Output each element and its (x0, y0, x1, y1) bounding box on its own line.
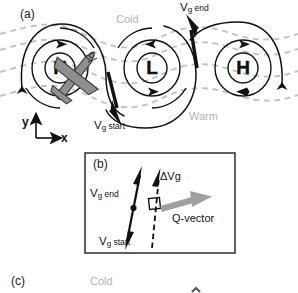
vg-start-base: V (94, 119, 102, 131)
panel-b-q-vector-label: Q-vector (172, 213, 214, 224)
axis-label-y: y (22, 116, 29, 128)
axis-label-x: x (61, 132, 68, 144)
pb-vg-start-suffix: start (114, 237, 131, 247)
panel-c-cold-label: Cold (90, 276, 113, 287)
vg-end-base: V (180, 1, 188, 13)
panel-a-vg-start-label: Vg start (94, 120, 125, 132)
pb-vg-end-suffix: end (105, 189, 119, 199)
panel-a-cold-label: Cold (116, 14, 139, 25)
delta-vg-sub: g (175, 170, 181, 182)
pb-vg-start-base: V (99, 235, 107, 247)
right-angle-icon (148, 197, 160, 209)
panel-c-tag: (c) (11, 275, 25, 287)
panel-a-vg-end-label: Vg end (180, 2, 209, 14)
panel-b-midpoint-dot (130, 205, 136, 211)
panel-b-vg-start-label: Vg start (99, 236, 130, 248)
vg-end-arrow (186, 14, 199, 68)
axis-indicator (36, 119, 56, 138)
low-symbol: L (146, 57, 158, 78)
figure-root: H L H (0, 0, 298, 293)
panel-b-vg-end-label: Vg end (90, 188, 119, 200)
delta-vg-base: ΔV (160, 170, 175, 182)
vg-end-suffix-text: end (195, 3, 209, 13)
vg-start-suffix-text: start (109, 121, 126, 131)
panel-b-delta-vg-label: ΔVg (160, 171, 181, 182)
panel-a-tag: (a) (20, 8, 35, 20)
high-left-symbol: H (53, 57, 67, 78)
pb-vg-end-base: V (90, 187, 98, 199)
high-right-symbol: H (236, 57, 250, 78)
panel-a-warm-label: Warm (189, 111, 218, 122)
q-vector-arrow (161, 191, 212, 209)
panel-a-graphics: H L H (0, 0, 298, 293)
panel-b-tag: (b) (93, 158, 108, 170)
